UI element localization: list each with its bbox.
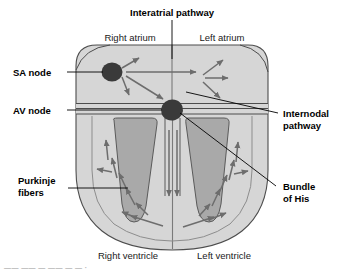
label-interatrial-pathway: Interatrial pathway <box>130 7 215 18</box>
label-right-ventricle: Right ventricle <box>98 250 158 261</box>
label-sa-node: SA node <box>13 67 51 78</box>
label-bundle-of-his-line2: of His <box>283 193 309 204</box>
label-left-ventricle: Left ventricle <box>197 250 251 261</box>
label-left-atrium: Left atrium <box>200 32 245 43</box>
caption-fragment: —— —— — —— — — · <box>4 264 87 271</box>
label-purkinje-fibers-line1: Purkinje <box>18 175 56 186</box>
cardiac-conduction-figure: Interatrial pathway Right atrium Left at… <box>0 0 344 276</box>
label-bundle-of-his-line1: Bundle <box>283 181 315 192</box>
sa-node-circle <box>102 63 123 82</box>
label-right-atrium: Right atrium <box>104 32 155 43</box>
label-purkinje-fibers-line2: fibers <box>18 187 44 198</box>
label-av-node: AV node <box>13 105 51 116</box>
label-internodal-pathway-line1: Internodal <box>283 108 329 119</box>
label-internodal-pathway-line2: pathway <box>283 120 322 131</box>
heart-conduction-diagram: Interatrial pathway Right atrium Left at… <box>0 0 344 276</box>
